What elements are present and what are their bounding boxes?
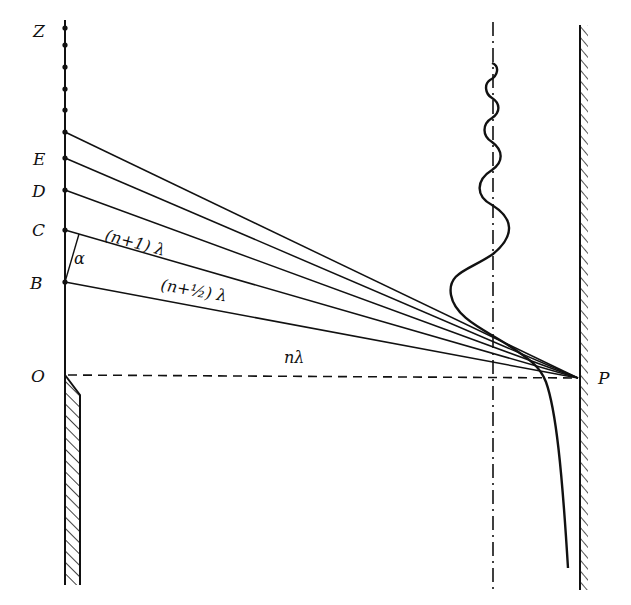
label-z: Z [32, 21, 46, 41]
label-b: B [29, 273, 43, 293]
op-dashed-line [68, 375, 578, 378]
label-c: C [32, 220, 45, 240]
label-e: E [32, 149, 46, 169]
observation-screen [580, 25, 588, 590]
obstacle-edge [65, 375, 80, 585]
label-o: O [31, 366, 45, 386]
path-label-n-plus-one: (n+1) λ [103, 226, 167, 260]
path-label-n: nλ [284, 348, 304, 367]
label-p: P [597, 368, 610, 388]
label-d: D [31, 181, 46, 201]
angle-label-alpha: α [74, 249, 85, 268]
intensity-curve [451, 63, 568, 568]
diffraction-diagram: Z E D C B O P (n+1) λ (n+½) λ nλ α [0, 0, 631, 605]
